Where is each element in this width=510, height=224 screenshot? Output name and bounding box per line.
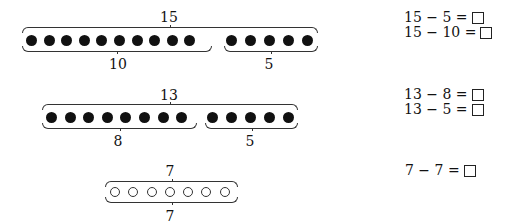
total-label: 15: [160, 10, 178, 24]
hollow-dot: [128, 187, 138, 197]
equation: 15 − 10 =: [404, 25, 492, 40]
dot: [283, 112, 294, 123]
dot: [245, 35, 256, 46]
group-1-dots: [26, 35, 195, 46]
hollow-dot: [201, 187, 211, 197]
equation: 13 − 8 =: [404, 87, 484, 102]
dot: [83, 112, 94, 123]
dot: [114, 35, 125, 46]
equation: 13 − 5 =: [404, 102, 484, 117]
group-1-label: 10: [109, 57, 127, 71]
dot: [79, 35, 90, 46]
total-label: 7: [166, 164, 175, 178]
equation-text: 15 − 10 =: [404, 25, 476, 40]
dot: [102, 112, 113, 123]
hollow-dot: [220, 187, 230, 197]
answer-box[interactable]: [472, 104, 484, 116]
hollow-dot: [147, 187, 157, 197]
dot: [264, 112, 275, 123]
group-2-brace: [224, 46, 318, 52]
dot: [245, 112, 256, 123]
dot: [139, 112, 150, 123]
equation: 7 − 7 =: [405, 163, 476, 178]
dot: [226, 35, 237, 46]
dot: [26, 35, 37, 46]
dot: [176, 112, 187, 123]
answer-box[interactable]: [472, 12, 484, 24]
group-1-brace: [105, 197, 238, 203]
equation: 15 − 5 =: [404, 10, 484, 25]
group-1-brace: [42, 123, 197, 129]
dot: [167, 35, 178, 46]
hollow-dot: [165, 187, 175, 197]
dot: [226, 112, 237, 123]
dot: [120, 112, 131, 123]
group-1-label: 7: [166, 209, 175, 223]
answer-box[interactable]: [472, 89, 484, 101]
dot: [158, 112, 169, 123]
dot: [283, 35, 294, 46]
dot: [184, 35, 195, 46]
dot: [149, 35, 160, 46]
dot: [61, 35, 72, 46]
group-1-label: 8: [114, 134, 123, 148]
answer-box[interactable]: [464, 165, 476, 177]
dot: [132, 35, 143, 46]
dot: [302, 35, 313, 46]
dot: [65, 112, 76, 123]
hollow-dot: [110, 187, 120, 197]
group-1-dots: [110, 187, 230, 197]
total-label: 13: [160, 88, 178, 102]
group-1-brace: [22, 46, 212, 52]
total-brace: [22, 27, 318, 33]
group-1-dots: [46, 112, 187, 123]
dot: [46, 112, 57, 123]
dot: [264, 35, 275, 46]
hollow-dot: [183, 187, 193, 197]
group-2-label: 5: [265, 57, 274, 71]
dot: [96, 35, 107, 46]
dot: [207, 112, 218, 123]
group-2-label: 5: [246, 134, 255, 148]
answer-box[interactable]: [480, 27, 492, 39]
group-2-dots: [226, 35, 313, 46]
group-2-brace: [205, 123, 298, 129]
equation-text: 7 − 7 =: [405, 163, 460, 178]
dot: [44, 35, 55, 46]
total-brace: [42, 104, 298, 110]
equation-text: 13 − 5 =: [404, 102, 468, 117]
equation-text: 15 − 5 =: [404, 10, 468, 25]
group-2-dots: [207, 112, 294, 123]
equation-text: 13 − 8 =: [404, 87, 468, 102]
